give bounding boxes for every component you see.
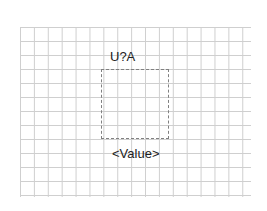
component-outline[interactable] — [101, 69, 169, 139]
component-reference[interactable]: U?A — [110, 49, 135, 64]
component-value[interactable]: <Value> — [112, 146, 159, 161]
